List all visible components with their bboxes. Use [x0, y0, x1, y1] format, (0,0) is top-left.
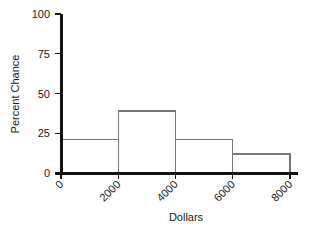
histogram-bar — [233, 154, 290, 173]
histogram-bar — [118, 111, 175, 173]
y-axis-title: Percent Chance — [9, 55, 21, 134]
x-tick-label: 4000 — [154, 178, 180, 204]
x-axis-title: Dollars — [169, 211, 204, 223]
chart-canvas: 0255075100 02000400060008000 Percent Cha… — [0, 0, 323, 231]
y-tick-label: 0 — [44, 167, 50, 179]
x-tick-label: 2000 — [97, 178, 123, 204]
bar-series — [61, 111, 290, 173]
x-axis-ticks: 02000400060008000 — [53, 173, 295, 204]
y-axis-ticks: 0255075100 — [32, 8, 61, 179]
y-tick-label: 50 — [38, 88, 50, 100]
x-tick-label: 6000 — [211, 178, 237, 204]
x-tick-label: 8000 — [269, 178, 295, 204]
histogram-chart: 0255075100 02000400060008000 Percent Cha… — [0, 0, 323, 231]
y-tick-label: 25 — [38, 127, 50, 139]
histogram-bar — [176, 140, 233, 173]
y-tick-label: 75 — [38, 48, 50, 60]
y-tick-label: 100 — [32, 8, 50, 20]
histogram-bar — [61, 140, 118, 173]
x-tick-label: 0 — [53, 178, 66, 191]
